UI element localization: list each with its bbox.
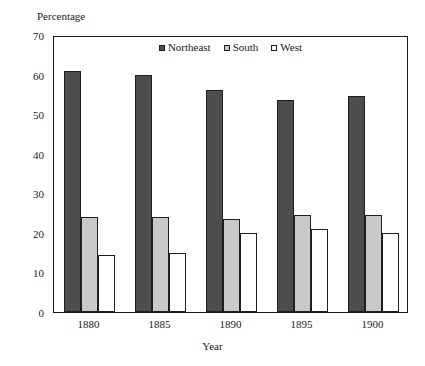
bar-west-1895: [311, 229, 328, 312]
bar-northeast-1880: [64, 71, 81, 312]
bar-chart-figure: Percentage 010203040506070 NortheastSout…: [0, 0, 425, 366]
bar-northeast-1885: [135, 75, 152, 312]
bar-west-1880: [98, 255, 115, 312]
bar-south-1880: [81, 217, 98, 312]
bar-south-1890: [223, 219, 240, 312]
bar-west-1885: [169, 253, 186, 312]
y-axis-label: Percentage: [37, 10, 85, 23]
y-tick-label: 20: [4, 228, 44, 239]
bar-northeast-1895: [277, 100, 294, 312]
bar-west-1890: [240, 233, 257, 312]
y-tick-label: 50: [4, 110, 44, 121]
x-tick-label: 1880: [54, 318, 124, 331]
bar-west-1900: [382, 233, 399, 312]
y-tick-label: 0: [4, 308, 44, 319]
y-tick-label: 70: [4, 31, 44, 42]
y-tick-label: 40: [4, 149, 44, 160]
bar-south-1900: [365, 215, 382, 312]
bar-south-1885: [152, 217, 169, 312]
x-axis-label: Year: [0, 340, 425, 353]
y-tick-label: 10: [4, 268, 44, 279]
x-tick-label: 1890: [196, 318, 266, 331]
x-tick-label: 1900: [338, 318, 408, 331]
y-tick-label: 30: [4, 189, 44, 200]
plot-area: [53, 36, 408, 313]
bar-south-1895: [294, 215, 311, 312]
y-tick-label: 60: [4, 70, 44, 81]
x-tick-label: 1885: [125, 318, 195, 331]
x-tick-label: 1895: [267, 318, 337, 331]
bar-northeast-1890: [206, 90, 223, 312]
bar-northeast-1900: [348, 96, 365, 312]
